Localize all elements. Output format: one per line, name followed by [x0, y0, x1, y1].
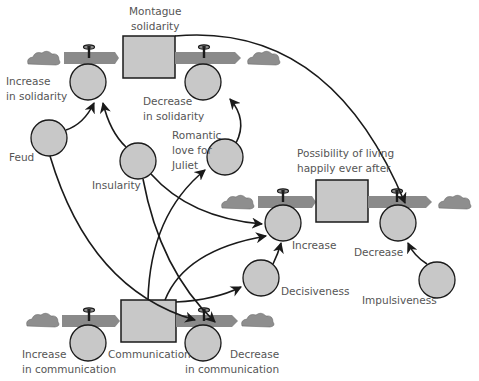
sink-cloud-icon: [242, 313, 274, 327]
stock-flow-diagram: [0, 0, 479, 381]
label-happily-ever-after: Possibility of living happily ever after: [297, 146, 394, 176]
label-decisiveness: Decisiveness: [281, 284, 349, 299]
source-cloud-icon: [222, 195, 254, 209]
label-decrease: Decrease: [354, 245, 403, 260]
label-increase-in-communication: Increase in communication: [22, 347, 116, 377]
sink-cloud-icon: [248, 51, 280, 65]
label-insularity: Insularity: [92, 178, 141, 193]
flow-increase-in-solidarity: [70, 64, 106, 100]
stock-communication: [121, 300, 176, 342]
label-decrease-in-solidarity: Decrease in solidarity: [143, 94, 204, 124]
flow-pipe: [64, 52, 119, 64]
flow-decrease: [380, 205, 416, 241]
source-cloud-icon: [28, 51, 60, 65]
label-montague-solidarity: Montague solidarity: [129, 4, 181, 34]
label-impulsiveness: Impulsiveness: [362, 293, 437, 308]
flow-increase: [265, 205, 301, 241]
label-feud: Feud: [9, 150, 34, 165]
label-decrease-in-communication: Decrease in communication: [185, 347, 279, 377]
converter-feud: [31, 120, 67, 156]
sink-cloud-icon: [439, 195, 471, 209]
label-romantic-love: Romantic love for Juliet: [172, 128, 221, 173]
stock-montague-solidarity: [123, 36, 175, 78]
converter-decisiveness: [243, 260, 279, 296]
label-communication: Communication: [108, 347, 191, 362]
flow-pipe: [175, 52, 241, 64]
happily-chain: [222, 180, 471, 241]
label-increase: Increase: [292, 238, 336, 253]
label-increase-in-solidarity: Increase in solidarity: [6, 74, 67, 104]
source-cloud-icon: [27, 313, 59, 327]
stock-happily-ever-after: [316, 180, 368, 222]
converter-insularity: [120, 143, 156, 179]
